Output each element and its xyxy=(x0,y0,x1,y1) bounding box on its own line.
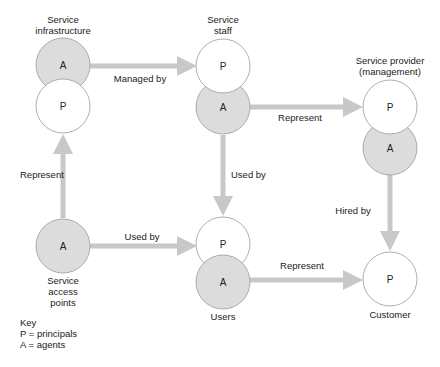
key-title: Key xyxy=(20,317,37,328)
legend-key: Key P = principals A = agents xyxy=(20,317,77,350)
node-customer: P Customer xyxy=(363,252,417,320)
label-represent-staff-provider: Represent xyxy=(278,112,322,123)
principal-letter: P xyxy=(220,239,227,250)
node-title-line2: staff xyxy=(214,25,232,36)
principal-agent-diagram: Managed by Represent Used by Represent U… xyxy=(0,0,440,367)
agent-letter: A xyxy=(220,102,227,113)
agent-letter: A xyxy=(60,60,67,71)
node-title-line1: Service xyxy=(207,14,239,25)
label-used-by-access-users: Used by xyxy=(125,231,160,242)
node-title-line2: infrastructure xyxy=(35,25,90,36)
node-title-line3: points xyxy=(50,297,76,308)
node-service-provider: Service provider (management) P A xyxy=(356,55,425,175)
label-hired-by: Hired by xyxy=(335,205,371,216)
agent-letter: A xyxy=(60,241,67,252)
node-service-staff: Service staff P A xyxy=(196,14,250,134)
node-title-line1: Service provider xyxy=(356,55,425,66)
node-users: P A Users xyxy=(196,217,250,322)
principal-letter: P xyxy=(60,101,67,112)
node-service-infrastructure: Service infrastructure A P xyxy=(35,14,90,133)
node-title: Users xyxy=(211,311,236,322)
principal-letter: P xyxy=(387,102,394,113)
principal-letter: P xyxy=(387,274,394,285)
node-title-line2: access xyxy=(48,286,78,297)
agent-letter: A xyxy=(220,277,227,288)
label-represent-access-infra: Represent xyxy=(20,169,64,180)
node-service-access-points: A Service access points xyxy=(36,219,90,308)
agent-letter: A xyxy=(387,143,394,154)
node-title-line1: Service xyxy=(47,14,79,25)
label-represent-users-customer: Represent xyxy=(280,260,324,271)
node-title-line1: Service xyxy=(47,275,79,286)
principal-letter: P xyxy=(220,61,227,72)
key-principals: P = principals xyxy=(20,328,77,339)
node-title: Customer xyxy=(369,309,410,320)
node-title-line2: (management) xyxy=(359,66,421,77)
key-agents: A = agents xyxy=(20,339,65,350)
label-managed-by: Managed by xyxy=(114,73,167,84)
label-used-by-staff-users: Used by xyxy=(231,169,266,180)
